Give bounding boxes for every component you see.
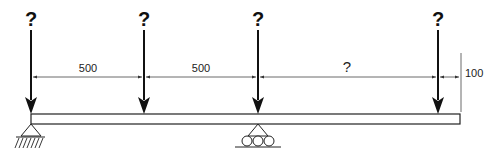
dimension-3: ? — [260, 58, 436, 77]
dimension-4: 100 — [440, 53, 483, 112]
beam — [31, 114, 460, 124]
load-arrow-1: ? — [25, 8, 37, 114]
dimension-2-label: 500 — [192, 62, 210, 74]
beam-diagram: ? ? ? ? 500 500 ? 100 — [0, 0, 490, 160]
load-3-label: ? — [252, 8, 264, 30]
dimension-3-label: ? — [343, 58, 351, 75]
load-2-label: ? — [138, 8, 150, 30]
dimension-1-label: 500 — [79, 62, 97, 74]
pin-support-icon — [15, 124, 45, 148]
load-arrow-4: ? — [432, 8, 444, 114]
dimension-4-label: 100 — [465, 67, 483, 79]
load-1-label: ? — [25, 8, 37, 30]
dimension-1: 500 — [33, 62, 142, 77]
load-arrow-2: ? — [138, 8, 150, 114]
roller-support-icon — [235, 124, 281, 147]
load-4-label: ? — [432, 8, 444, 30]
load-arrow-3: ? — [252, 8, 264, 114]
dimension-2: 500 — [146, 62, 256, 77]
